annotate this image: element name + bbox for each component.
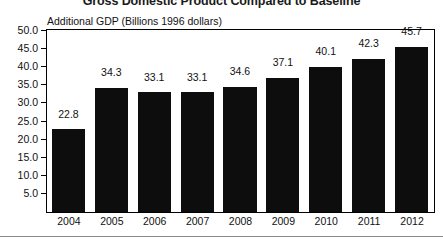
y-axis-tick-mark [41,139,47,140]
chart-title: Gross Domestic Product Compared to Basel… [0,0,443,8]
x-axis-tick-label: 2012 [391,216,434,227]
y-axis-tick-mark [41,102,47,103]
y-axis-tick-label: 45.0 [18,43,38,54]
bar-slot: 33.1 [181,30,214,212]
bar-slot: 40.1 [309,30,342,212]
bar[interactable] [95,88,128,212]
bar-slot: 34.3 [95,30,128,212]
bar[interactable] [395,47,428,212]
y-axis-tick-mark [41,84,47,85]
bar-slot: 22.8 [52,30,85,212]
x-axis-tick-label: 2007 [176,216,219,227]
x-axis-tick-label: 2004 [48,216,91,227]
x-axis-tick-label: 2011 [348,216,391,227]
y-axis-tick-label: 20.0 [18,133,38,144]
bar-value-label: 34.3 [101,67,121,78]
y-axis-tick-label: 5.0 [23,188,38,199]
bar[interactable] [181,92,214,212]
y-axis-tick-label: 30.0 [18,97,38,108]
y-axis-tick-label: 10.0 [18,170,38,181]
bar-slot: 45.7 [395,30,428,212]
bar[interactable] [309,67,342,212]
bar-value-label: 22.8 [58,108,78,119]
bar-value-label: 33.1 [144,71,164,82]
x-axis-tick-label: 2006 [133,216,176,227]
bar[interactable] [266,78,299,212]
y-axis-tick-mark [41,48,47,49]
bar-value-label: 34.6 [230,66,250,77]
bar[interactable] [352,59,385,212]
y-axis-tick-mark [41,30,47,31]
bar-slot: 33.1 [138,30,171,212]
x-axis-tick-label: 2008 [219,216,262,227]
chart-figure: Gross Domestic Product Compared to Basel… [0,0,443,243]
y-axis-tick-label: 25.0 [18,115,38,126]
bar[interactable] [223,87,256,212]
x-axis-tick-label: 2010 [305,216,348,227]
y-axis-tick-mark [41,157,47,158]
y-axis-tick-mark [41,121,47,122]
y-axis-caption: Additional GDP (Billions 1996 dollars) [47,15,222,27]
bar-value-label: 37.1 [273,57,293,68]
plot-area: 50.045.040.035.030.025.020.015.010.05.02… [46,29,435,213]
y-axis-tick-label: 35.0 [18,79,38,90]
y-axis-tick-label: 50.0 [18,25,38,36]
bar[interactable] [138,92,171,212]
plot-inner: 50.045.040.035.030.025.020.015.010.05.02… [47,30,434,212]
y-axis-tick-mark [41,193,47,194]
y-axis-tick-mark [41,66,47,67]
bar-value-label: 40.1 [316,46,336,57]
bar[interactable] [52,129,85,212]
bottom-divider [0,236,443,237]
x-axis-tick-label: 2009 [262,216,305,227]
bar-slot: 34.6 [223,30,256,212]
y-axis-tick-label: 15.0 [18,151,38,162]
y-axis-tick-label: 40.0 [18,61,38,72]
bar-value-label: 42.3 [358,38,378,49]
bar-value-label: 45.7 [401,26,421,37]
y-axis-tick-mark [41,175,47,176]
bar-value-label: 33.1 [187,71,207,82]
bar-slot: 42.3 [352,30,385,212]
bar-slot: 37.1 [266,30,299,212]
x-axis-tick-label: 2005 [90,216,133,227]
